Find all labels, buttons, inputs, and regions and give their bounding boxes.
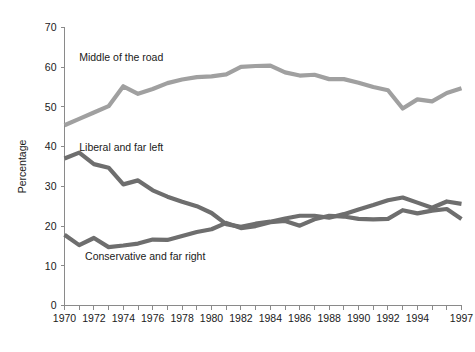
x-tick-label: 1990 — [347, 312, 371, 324]
x-tick-label: 1986 — [288, 312, 312, 324]
x-tick-label: 1988 — [317, 312, 341, 324]
x-tick-label: 1982 — [229, 312, 253, 324]
y-tick-label: 60 — [45, 61, 57, 73]
series-label-group: Middle of the roadLiberal and far leftCo… — [79, 51, 205, 262]
y-tick-label: 70 — [45, 21, 57, 33]
series-line — [65, 153, 462, 227]
x-tick-label: 1992 — [376, 312, 400, 324]
y-axis-title: Percentage — [16, 139, 28, 193]
x-tick-label: 1976 — [141, 312, 165, 324]
series-line — [65, 209, 462, 247]
series-label: Conservative and far right — [85, 250, 205, 262]
x-tick-label: 1984 — [259, 312, 283, 324]
series-label: Liberal and far left — [79, 141, 163, 153]
series-label: Middle of the road — [79, 51, 163, 63]
data-series-group — [65, 66, 462, 247]
y-tick-label: 0 — [51, 299, 57, 311]
x-tick-label: 1972 — [82, 312, 106, 324]
x-axis-ticks: 1970197219741976197819801982198419861988… — [53, 306, 474, 324]
x-tick-label: 1974 — [112, 312, 136, 324]
line-chart-container: 010203040506070 197019721974197619781980… — [0, 0, 475, 352]
x-tick-label: 1978 — [170, 312, 194, 324]
y-tick-label: 40 — [45, 140, 57, 152]
y-tick-label: 30 — [45, 180, 57, 192]
series-line — [65, 66, 462, 126]
x-tick-label: 1994 — [406, 312, 430, 324]
x-tick-label: 1997 — [450, 312, 474, 324]
y-tick-label: 20 — [45, 220, 57, 232]
y-axis-ticks: 010203040506070 — [45, 21, 65, 311]
x-tick-label: 1980 — [200, 312, 224, 324]
y-tick-label: 10 — [45, 260, 57, 272]
x-tick-label: 1970 — [53, 312, 77, 324]
y-tick-label: 50 — [45, 101, 57, 113]
chart-plot-area: 010203040506070 197019721974197619781980… — [0, 0, 475, 352]
